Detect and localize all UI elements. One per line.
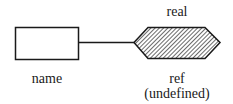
name-box [16,28,79,60]
undefined-label: (undefined) [137,87,217,101]
name-label: name [22,72,72,86]
ref-label: ref [157,72,197,86]
ref-hexagon [134,28,220,59]
type-label: real [157,5,197,19]
